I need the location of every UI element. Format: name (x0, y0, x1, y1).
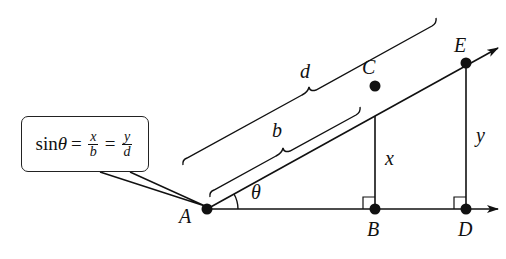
label-b-segment: b (272, 119, 282, 141)
label-y: y (474, 124, 485, 147)
point-a (202, 204, 213, 215)
label-x: x (384, 147, 394, 169)
label-theta: θ (251, 181, 261, 203)
equals-sign-2: = (105, 133, 116, 155)
point-c (370, 81, 381, 92)
formula-callout: sin θ = x b = y d (21, 116, 149, 172)
label-b: B (367, 218, 379, 240)
point-e (461, 58, 472, 69)
callout-pointer (100, 172, 205, 206)
brace-d (183, 18, 436, 165)
numerator-x: x (88, 130, 98, 145)
fraction-x-over-b: x b (88, 130, 99, 159)
point-b (370, 204, 381, 215)
label-a: A (177, 205, 192, 227)
brace-b (210, 107, 360, 197)
label-d-segment: d (300, 60, 311, 82)
angle-arc (234, 194, 238, 209)
label-d: D (457, 218, 473, 240)
point-d (461, 204, 472, 215)
theta-symbol: θ (58, 133, 67, 155)
label-e: E (453, 34, 466, 56)
equals-sign: = (71, 133, 82, 155)
label-c: C (362, 56, 376, 78)
sin-function: sin (36, 133, 58, 155)
numerator-y: y (122, 130, 132, 145)
fraction-y-over-d: y d (121, 130, 132, 159)
denominator-d: d (121, 145, 132, 159)
denominator-b: b (88, 145, 99, 159)
